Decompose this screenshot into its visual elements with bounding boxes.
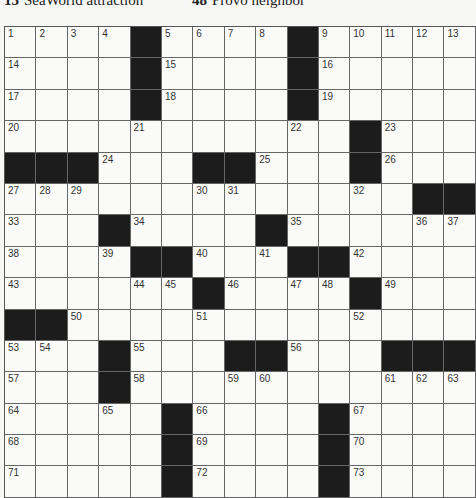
grid-cell[interactable]: [319, 310, 350, 341]
grid-cell[interactable]: [256, 466, 287, 497]
grid-cell[interactable]: 54: [36, 341, 67, 372]
grid-cell[interactable]: [68, 372, 99, 403]
grid-cell[interactable]: [99, 278, 130, 309]
grid-cell[interactable]: 66: [193, 404, 224, 435]
grid-cell[interactable]: [382, 310, 413, 341]
grid-cell[interactable]: 31: [225, 184, 256, 215]
grid-cell[interactable]: [68, 90, 99, 121]
grid-cell[interactable]: [413, 247, 444, 278]
grid-cell[interactable]: [256, 121, 287, 152]
grid-cell[interactable]: [350, 58, 381, 89]
grid-cell[interactable]: 38: [5, 247, 36, 278]
grid-cell[interactable]: 10: [350, 27, 381, 58]
grid-cell[interactable]: 48: [319, 278, 350, 309]
grid-cell[interactable]: [225, 310, 256, 341]
grid-cell[interactable]: 7: [225, 27, 256, 58]
grid-cell[interactable]: 14: [5, 58, 36, 89]
grid-cell[interactable]: 62: [413, 372, 444, 403]
grid-cell[interactable]: [193, 90, 224, 121]
grid-cell[interactable]: 17: [5, 90, 36, 121]
grid-cell[interactable]: [68, 341, 99, 372]
grid-cell[interactable]: [256, 184, 287, 215]
grid-cell[interactable]: [288, 184, 319, 215]
grid-cell[interactable]: 41: [256, 247, 287, 278]
grid-cell[interactable]: 63: [444, 372, 475, 403]
grid-cell[interactable]: [68, 435, 99, 466]
grid-cell[interactable]: 20: [5, 121, 36, 152]
grid-cell[interactable]: 46: [225, 278, 256, 309]
grid-cell[interactable]: 2: [36, 27, 67, 58]
grid-cell[interactable]: [256, 90, 287, 121]
grid-cell[interactable]: 68: [5, 435, 36, 466]
grid-cell[interactable]: [350, 341, 381, 372]
grid-cell[interactable]: 53: [5, 341, 36, 372]
grid-cell[interactable]: 4: [99, 27, 130, 58]
grid-cell[interactable]: [99, 310, 130, 341]
grid-cell[interactable]: [382, 184, 413, 215]
grid-cell[interactable]: [444, 153, 475, 184]
grid-cell[interactable]: 6: [193, 27, 224, 58]
grid-cell[interactable]: [36, 278, 67, 309]
grid-cell[interactable]: [99, 466, 130, 497]
grid-cell[interactable]: 18: [162, 90, 193, 121]
grid-cell[interactable]: 8: [256, 27, 287, 58]
grid-cell[interactable]: 28: [36, 184, 67, 215]
grid-cell[interactable]: 36: [413, 215, 444, 246]
grid-cell[interactable]: [413, 435, 444, 466]
grid-cell[interactable]: [36, 466, 67, 497]
grid-cell[interactable]: [288, 372, 319, 403]
grid-cell[interactable]: [99, 435, 130, 466]
grid-cell[interactable]: 23: [382, 121, 413, 152]
grid-cell[interactable]: [444, 247, 475, 278]
grid-cell[interactable]: [99, 121, 130, 152]
grid-cell[interactable]: 56: [288, 341, 319, 372]
grid-cell[interactable]: 55: [131, 341, 162, 372]
grid-cell[interactable]: [288, 435, 319, 466]
grid-cell[interactable]: [288, 466, 319, 497]
grid-cell[interactable]: [68, 278, 99, 309]
grid-cell[interactable]: 37: [444, 215, 475, 246]
grid-cell[interactable]: [413, 404, 444, 435]
grid-cell[interactable]: 50: [68, 310, 99, 341]
grid-cell[interactable]: [256, 278, 287, 309]
grid-cell[interactable]: 42: [350, 247, 381, 278]
grid-cell[interactable]: 73: [350, 466, 381, 497]
grid-cell[interactable]: [256, 58, 287, 89]
grid-cell[interactable]: 35: [288, 215, 319, 246]
grid-cell[interactable]: [382, 58, 413, 89]
grid-cell[interactable]: [444, 58, 475, 89]
grid-cell[interactable]: 43: [5, 278, 36, 309]
grid-cell[interactable]: [162, 215, 193, 246]
grid-cell[interactable]: [36, 121, 67, 152]
grid-cell[interactable]: [131, 435, 162, 466]
grid-cell[interactable]: [444, 90, 475, 121]
grid-cell[interactable]: [68, 404, 99, 435]
grid-cell[interactable]: [68, 466, 99, 497]
grid-cell[interactable]: [319, 341, 350, 372]
grid-cell[interactable]: 1: [5, 27, 36, 58]
grid-cell[interactable]: 25: [256, 153, 287, 184]
grid-cell[interactable]: [444, 435, 475, 466]
grid-cell[interactable]: [319, 184, 350, 215]
grid-cell[interactable]: [382, 247, 413, 278]
grid-cell[interactable]: [68, 58, 99, 89]
grid-cell[interactable]: 19: [319, 90, 350, 121]
grid-cell[interactable]: [131, 153, 162, 184]
grid-cell[interactable]: [36, 215, 67, 246]
grid-cell[interactable]: [256, 404, 287, 435]
grid-cell[interactable]: 65: [99, 404, 130, 435]
grid-cell[interactable]: [225, 90, 256, 121]
grid-cell[interactable]: 60: [256, 372, 287, 403]
grid-cell[interactable]: [413, 121, 444, 152]
grid-cell[interactable]: [131, 404, 162, 435]
grid-cell[interactable]: 45: [162, 278, 193, 309]
grid-cell[interactable]: [319, 215, 350, 246]
grid-cell[interactable]: [131, 184, 162, 215]
grid-cell[interactable]: [36, 58, 67, 89]
grid-cell[interactable]: [382, 404, 413, 435]
grid-cell[interactable]: 39: [99, 247, 130, 278]
grid-cell[interactable]: [131, 466, 162, 497]
grid-cell[interactable]: 27: [5, 184, 36, 215]
grid-cell[interactable]: 9: [319, 27, 350, 58]
grid-cell[interactable]: 72: [193, 466, 224, 497]
